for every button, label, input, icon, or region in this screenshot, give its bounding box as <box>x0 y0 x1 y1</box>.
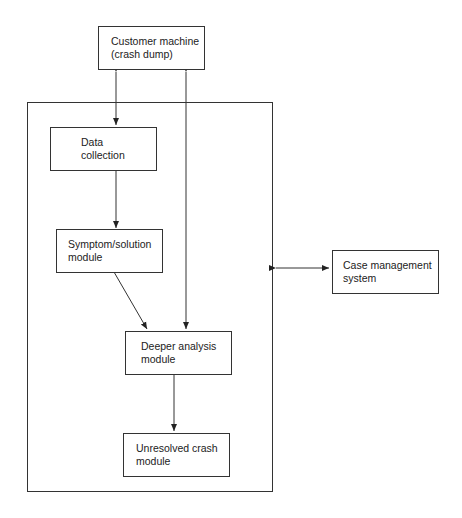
node-label-line1: Unresolved crash <box>136 442 229 455</box>
node-unresolved-crash: Unresolved crash module <box>123 433 230 477</box>
node-case-management: Case management system <box>332 250 439 294</box>
edge-symptom-deeper <box>114 272 147 329</box>
node-label-line2: (crash dump) <box>111 48 204 61</box>
node-label-line1: Deeper analysis <box>141 340 231 353</box>
node-label-line1: Data <box>81 136 156 149</box>
node-label-line2: system <box>343 272 438 285</box>
node-customer-machine: Customer machine (crash dump) <box>98 26 205 70</box>
node-symptom-solution: Symptom/solution module <box>56 229 163 273</box>
node-label-line2: module <box>136 455 229 468</box>
node-label-line2: module <box>68 251 162 264</box>
node-label-line2: collection <box>81 149 156 162</box>
node-label-line1: Case management <box>343 259 438 272</box>
node-deeper-analysis: Deeper analysis module <box>125 331 232 375</box>
node-data-collection: Data collection <box>50 127 157 171</box>
node-label-line1: Symptom/solution <box>68 238 162 251</box>
node-label-line2: module <box>141 353 231 366</box>
node-label-line1: Customer machine <box>111 35 204 48</box>
